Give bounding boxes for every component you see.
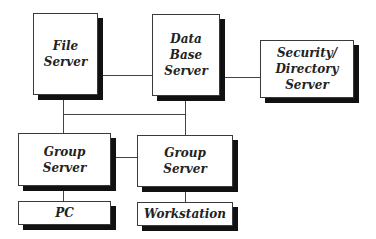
edge-bus <box>63 114 186 115</box>
node-label: PC <box>55 205 74 221</box>
edge-group1-to-pc <box>63 190 64 201</box>
node-pc: PC <box>18 201 111 225</box>
node-group-server-1: Group Server <box>18 133 111 186</box>
node-database-server: Data Base Server <box>152 14 220 96</box>
node-label: Group Server <box>163 145 207 177</box>
edge-file-to-database <box>97 75 152 76</box>
edge-group-to-group <box>115 157 137 158</box>
node-label: File Server <box>44 38 88 70</box>
edge-group2-to-workstation <box>185 191 186 202</box>
edge-database-to-security <box>224 77 260 78</box>
node-label: Security/ Directory Server <box>275 45 338 93</box>
node-workstation: Workstation <box>137 202 233 226</box>
edge-file-down <box>63 99 64 133</box>
node-file-server: File Server <box>33 13 98 95</box>
node-group-server-2: Group Server <box>137 135 233 187</box>
node-label: Data Base Server <box>164 31 208 79</box>
network-diagram: File Server Data Base Server Security/ D… <box>0 0 376 239</box>
node-label: Workstation <box>144 206 226 222</box>
edge-database-down <box>185 100 186 135</box>
node-security-directory-server: Security/ Directory Server <box>260 40 354 98</box>
node-label: Group Server <box>43 144 87 176</box>
